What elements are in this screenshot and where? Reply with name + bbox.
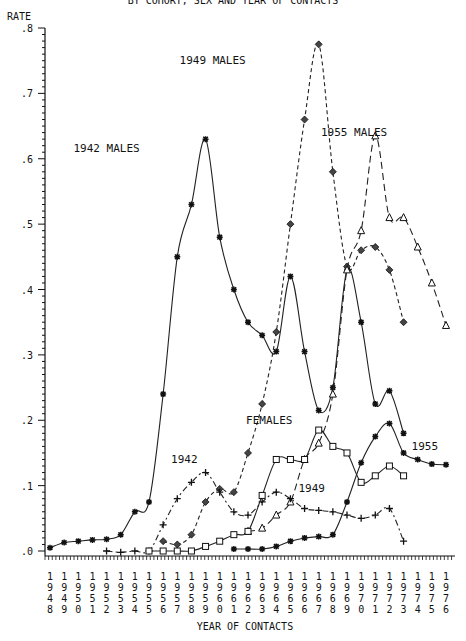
svg-text:9: 9 bbox=[401, 582, 407, 593]
data-point-asterisk bbox=[330, 532, 336, 538]
annotation-label: FEMALES bbox=[246, 414, 292, 427]
axes: .0.1.2.3.4.5.6.7.81948194919501951195219… bbox=[21, 23, 455, 615]
data-point-asterisk bbox=[302, 535, 308, 541]
svg-text:1: 1 bbox=[217, 571, 223, 582]
svg-text:9: 9 bbox=[302, 582, 308, 593]
data-point-asterisk bbox=[245, 546, 251, 552]
svg-text:2: 2 bbox=[245, 604, 251, 615]
data-point-plus bbox=[103, 548, 110, 555]
svg-text:0: 0 bbox=[75, 604, 81, 615]
data-point-star bbox=[160, 391, 166, 397]
svg-text:6: 6 bbox=[316, 593, 322, 604]
data-point-plus bbox=[372, 512, 379, 519]
svg-text:1: 1 bbox=[316, 571, 322, 582]
svg-text:5: 5 bbox=[146, 593, 152, 604]
data-point-asterisk bbox=[401, 450, 407, 456]
data-point-square bbox=[386, 463, 392, 469]
svg-text:5: 5 bbox=[75, 593, 81, 604]
data-point-triangle bbox=[428, 279, 435, 286]
data-point-asterisk bbox=[443, 462, 449, 468]
svg-text:1: 1 bbox=[75, 571, 81, 582]
data-point-star bbox=[273, 349, 279, 355]
svg-text:9: 9 bbox=[104, 582, 110, 593]
svg-text:1: 1 bbox=[245, 571, 251, 582]
x-tick-label: 1969 bbox=[344, 571, 350, 615]
annotation-label: 1955 bbox=[412, 440, 439, 453]
svg-text:6: 6 bbox=[245, 593, 251, 604]
y-tick-label: .8 bbox=[21, 23, 33, 34]
svg-text:9: 9 bbox=[330, 582, 336, 593]
data-point-triangle bbox=[273, 511, 280, 518]
data-point-asterisk bbox=[386, 421, 392, 427]
data-point-square bbox=[273, 456, 279, 462]
x-tick-label: 1963 bbox=[259, 571, 265, 615]
data-point-triangle bbox=[414, 243, 421, 250]
data-point-triangle bbox=[259, 524, 266, 531]
svg-text:7: 7 bbox=[415, 593, 421, 604]
data-point-diamond bbox=[202, 498, 209, 505]
data-point-asterisk bbox=[316, 534, 322, 540]
data-point-star bbox=[89, 537, 95, 543]
svg-text:9: 9 bbox=[61, 582, 67, 593]
data-point-plus bbox=[400, 538, 407, 545]
line-chart: BY COHORT, SEX AND YEAR OF CONTACTS RATE… bbox=[0, 0, 466, 641]
data-point-square bbox=[372, 473, 378, 479]
data-point-plus bbox=[202, 469, 209, 476]
svg-text:3: 3 bbox=[118, 604, 124, 615]
svg-text:9: 9 bbox=[429, 582, 435, 593]
data-point-asterisk bbox=[358, 460, 364, 466]
data-point-square bbox=[203, 543, 209, 549]
svg-text:1: 1 bbox=[203, 571, 209, 582]
data-point-star bbox=[259, 332, 265, 338]
data-point-diamond bbox=[160, 538, 167, 545]
svg-text:9: 9 bbox=[188, 582, 194, 593]
data-point-square bbox=[245, 528, 251, 534]
data-point-star bbox=[104, 536, 110, 542]
svg-text:1: 1 bbox=[287, 571, 293, 582]
svg-text:6: 6 bbox=[330, 593, 336, 604]
svg-text:7: 7 bbox=[316, 604, 322, 615]
svg-text:9: 9 bbox=[358, 582, 364, 593]
svg-text:1: 1 bbox=[118, 571, 124, 582]
x-tick-label: 1961 bbox=[231, 571, 237, 615]
data-point-square bbox=[259, 492, 265, 498]
svg-text:6: 6 bbox=[259, 593, 265, 604]
data-point-square bbox=[287, 456, 293, 462]
x-tick-label: 1965 bbox=[287, 571, 293, 615]
data-point-star bbox=[61, 540, 67, 546]
data-point-star bbox=[287, 273, 293, 279]
svg-text:1: 1 bbox=[231, 604, 237, 615]
svg-text:1: 1 bbox=[231, 571, 237, 582]
data-point-star bbox=[118, 532, 124, 538]
svg-text:5: 5 bbox=[118, 593, 124, 604]
annotation-label: 1942 bbox=[171, 453, 198, 466]
data-point-diamond bbox=[329, 168, 336, 175]
data-point-square bbox=[160, 548, 166, 554]
data-point-asterisk bbox=[259, 546, 265, 552]
svg-text:9: 9 bbox=[344, 582, 350, 593]
data-point-star bbox=[386, 388, 392, 394]
svg-text:9: 9 bbox=[89, 582, 95, 593]
svg-text:9: 9 bbox=[372, 582, 378, 593]
svg-text:5: 5 bbox=[104, 593, 110, 604]
x-tick-label: 1948 bbox=[47, 571, 53, 615]
data-point-star bbox=[132, 509, 138, 515]
data-point-diamond bbox=[301, 116, 308, 123]
svg-text:1: 1 bbox=[47, 571, 53, 582]
x-tick-label: 1962 bbox=[245, 571, 251, 615]
svg-text:9: 9 bbox=[61, 604, 67, 615]
data-point-asterisk bbox=[273, 543, 279, 549]
svg-text:5: 5 bbox=[203, 593, 209, 604]
data-point-diamond bbox=[287, 221, 294, 228]
svg-text:9: 9 bbox=[203, 582, 209, 593]
data-point-star bbox=[47, 545, 53, 551]
x-tick-label: 1966 bbox=[302, 571, 308, 615]
data-point-triangle bbox=[315, 439, 322, 446]
svg-text:4: 4 bbox=[61, 593, 67, 604]
y-tick-label: .1 bbox=[21, 481, 33, 492]
svg-text:1: 1 bbox=[61, 571, 67, 582]
data-point-star bbox=[146, 499, 152, 505]
data-point-square bbox=[231, 532, 237, 538]
svg-text:2: 2 bbox=[386, 604, 392, 615]
data-point-square bbox=[401, 473, 407, 479]
